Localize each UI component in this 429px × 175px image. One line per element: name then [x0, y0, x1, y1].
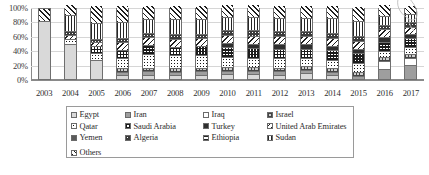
- bar-series-container: [31, 8, 424, 80]
- bar-segment: [353, 54, 364, 63]
- legend-spacer: [125, 144, 201, 162]
- bar-segment: [117, 76, 128, 80]
- x-axis-tick-label: 2010: [219, 88, 235, 98]
- bar-segment: [117, 51, 128, 59]
- bar-slot: [241, 8, 267, 80]
- bar-segment: [222, 48, 233, 57]
- bar-segment: [196, 6, 207, 20]
- x-axis-tick-label: 2007: [141, 88, 157, 98]
- legend-item-label: United Arab Emirates: [276, 121, 347, 133]
- y-axis-tick-label: 60%: [13, 33, 28, 41]
- legend-spacer: [203, 144, 265, 162]
- bar-slot: [319, 8, 345, 80]
- legend-swatch-icon: [71, 135, 77, 141]
- bar-segment: [301, 50, 312, 59]
- bar-segment: [196, 20, 207, 34]
- x-label-slot: 2005: [83, 82, 109, 96]
- bar-segment: [301, 19, 312, 33]
- bar-segment: [222, 18, 233, 31]
- bar-segment: [274, 37, 285, 45]
- bar-segment: [222, 58, 233, 68]
- bar-slot: [345, 8, 371, 80]
- plot-area: [31, 8, 424, 80]
- bar-segment: [222, 5, 233, 18]
- bar-segment: [274, 76, 285, 80]
- plot-wrapper: 100%80%60%40%20%0% 200320042005200620072…: [0, 0, 429, 104]
- bar-segment: [143, 46, 154, 55]
- stacked-bar[interactable]: [195, 8, 208, 80]
- legend-item[interactable]: Iran: [125, 109, 201, 121]
- stacked-bar[interactable]: [300, 8, 313, 80]
- x-axis-labels: 2003200420052006200720082009201020112012…: [31, 82, 424, 96]
- legend-item[interactable]: Egypt: [71, 109, 123, 121]
- stacked-bar[interactable]: [116, 8, 129, 80]
- x-axis-tick-label: 2015: [350, 88, 366, 98]
- bar-segment: [379, 5, 390, 17]
- bar-segment: [379, 62, 390, 70]
- x-label-slot: 2014: [319, 82, 345, 96]
- x-axis-tick-label: 2014: [324, 88, 340, 98]
- legend-item-label: Israel: [276, 109, 294, 121]
- bar-segment: [353, 7, 364, 23]
- legend-item[interactable]: Saudi Arabia: [125, 121, 201, 133]
- bar-segment: [274, 59, 285, 68]
- bar-segment: [91, 24, 102, 40]
- legend-item-label: Turkey: [212, 121, 235, 133]
- bar-segment: [274, 6, 285, 19]
- legend-item[interactable]: Turkey: [203, 121, 265, 133]
- legend-item[interactable]: Iraq: [203, 109, 265, 121]
- bar-segment: [222, 75, 233, 79]
- bar-segment: [91, 61, 102, 79]
- stacked-bar[interactable]: [64, 8, 77, 80]
- bar-segment: [379, 30, 390, 38]
- legend-swatch-icon: [267, 123, 273, 129]
- stacked-bar[interactable]: [169, 8, 182, 80]
- bar-segment: [327, 61, 338, 70]
- x-axis-tick-label: 2009: [193, 88, 209, 98]
- bar-slot: [293, 8, 319, 80]
- x-axis-tick-label: 2006: [115, 88, 131, 98]
- stacked-bar[interactable]: [38, 8, 51, 80]
- stacked-bar[interactable]: [221, 8, 234, 80]
- bar-segment: [143, 55, 154, 69]
- legend-item[interactable]: Qatar: [71, 121, 123, 133]
- legend-item[interactable]: Sudan: [267, 132, 350, 144]
- bar-slot: [267, 8, 293, 80]
- stacked-bar[interactable]: [142, 8, 155, 80]
- stacked-bar[interactable]: [273, 8, 286, 80]
- legend-item[interactable]: Others: [71, 144, 123, 162]
- bar-slot: [31, 8, 57, 80]
- legend-item-label: Yemen: [80, 132, 103, 144]
- x-label-slot: 2010: [214, 82, 240, 96]
- x-label-slot: 2012: [267, 82, 293, 96]
- bar-segment: [301, 59, 312, 67]
- bar-segment: [117, 23, 128, 39]
- bar-slot: [57, 8, 83, 80]
- bar-segment: [327, 39, 338, 47]
- bar-segment: [248, 37, 259, 45]
- bar-slot: [162, 8, 188, 80]
- y-axis-tick-label: 40%: [13, 47, 28, 55]
- bar-segment: [170, 56, 181, 69]
- legend-item[interactable]: Yemen: [71, 132, 123, 144]
- legend-item[interactable]: United Arab Emirates: [267, 121, 350, 133]
- stacked-bar[interactable]: [404, 8, 417, 80]
- legend-item[interactable]: Ethiopia: [203, 132, 265, 144]
- y-axis-tick-label: 80%: [13, 18, 28, 26]
- x-label-slot: 2011: [241, 82, 267, 96]
- bar-segment: [117, 6, 128, 23]
- bar-segment: [65, 16, 76, 32]
- stacked-bar[interactable]: [378, 8, 391, 80]
- stacked-bar[interactable]: [247, 8, 260, 80]
- bar-segment: [405, 59, 416, 66]
- legend-item[interactable]: Israel: [267, 109, 350, 121]
- stacked-bar[interactable]: [352, 8, 365, 80]
- bar-segment: [405, 48, 416, 55]
- stacked-bar[interactable]: [326, 8, 339, 80]
- stacked-bar[interactable]: [90, 8, 103, 80]
- bar-segment: [170, 76, 181, 79]
- bar-segment: [196, 39, 207, 47]
- bar-slot: [214, 8, 240, 80]
- legend-item-label: Ethiopia: [212, 132, 240, 144]
- legend-item[interactable]: Algeria: [125, 132, 201, 144]
